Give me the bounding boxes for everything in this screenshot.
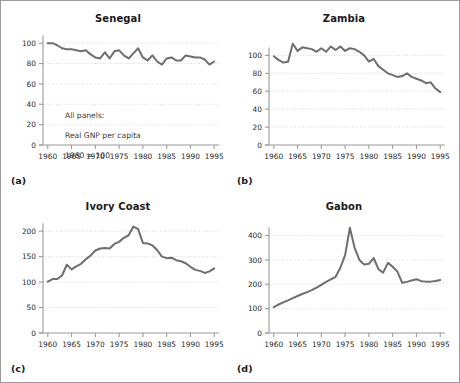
svg-text:80: 80 [253, 69, 263, 78]
svg-text:100: 100 [22, 278, 36, 287]
panel-ivory-coast: Ivory Coast 0501001502001960196519701975… [7, 197, 229, 381]
svg-text:1980: 1980 [359, 340, 378, 349]
panel-letter-a: (a) [11, 175, 26, 186]
svg-text:1990: 1990 [407, 340, 426, 349]
note-line-2: Real GNP per capita [65, 131, 141, 140]
svg-text:1980: 1980 [133, 340, 152, 349]
svg-text:1975: 1975 [110, 340, 129, 349]
svg-text:1960: 1960 [264, 152, 283, 161]
panel-title-ivory-coast: Ivory Coast [7, 201, 229, 212]
svg-text:100: 100 [22, 39, 36, 48]
note-line-1: All panels: [65, 111, 104, 120]
svg-text:1995: 1995 [205, 152, 224, 161]
svg-text:100: 100 [248, 51, 262, 60]
svg-text:1960: 1960 [38, 340, 57, 349]
svg-text:1965: 1965 [62, 340, 81, 349]
panel-letter-c: (c) [11, 363, 25, 374]
figure-frame: Senegal 02040608010019601965197019751980… [0, 0, 460, 383]
figure-note: All panels: Real GNP per capita 1960 = 1… [65, 101, 141, 161]
chart-zambia: 0204060801001960196519701975198019851990… [233, 25, 455, 175]
svg-text:0: 0 [31, 141, 36, 150]
svg-text:40: 40 [253, 105, 263, 114]
svg-text:0: 0 [257, 329, 262, 338]
svg-text:1990: 1990 [181, 152, 200, 161]
svg-text:1995: 1995 [205, 340, 224, 349]
svg-text:1980: 1980 [359, 152, 378, 161]
svg-text:50: 50 [27, 303, 37, 312]
svg-text:40: 40 [27, 100, 37, 109]
panel-letter-b: (b) [237, 175, 252, 186]
chart-gabon: 0100200300400196019651970197519801985199… [233, 213, 455, 363]
svg-text:20: 20 [253, 123, 263, 132]
panel-title-gabon: Gabon [233, 201, 455, 212]
svg-text:1985: 1985 [157, 152, 176, 161]
svg-text:1985: 1985 [157, 340, 176, 349]
svg-text:1965: 1965 [288, 340, 307, 349]
svg-text:1995: 1995 [431, 340, 450, 349]
svg-text:20: 20 [27, 120, 37, 129]
svg-text:1970: 1970 [312, 152, 331, 161]
svg-text:1975: 1975 [336, 152, 355, 161]
svg-text:1960: 1960 [264, 340, 283, 349]
svg-text:0: 0 [31, 329, 36, 338]
panel-title-senegal: Senegal [7, 13, 229, 24]
panel-gabon: Gabon 0100200300400196019651970197519801… [233, 197, 455, 381]
panel-zambia: Zambia 020406080100196019651970197519801… [233, 7, 455, 193]
note-line-3: 1960 = 100 [65, 151, 110, 160]
svg-text:150: 150 [22, 252, 36, 261]
svg-text:80: 80 [27, 59, 37, 68]
svg-text:1990: 1990 [181, 340, 200, 349]
svg-text:100: 100 [248, 304, 262, 313]
chart-ivory-coast: 0501001502001960196519701975198019851990… [7, 213, 229, 363]
panel-senegal: Senegal 02040608010019601965197019751980… [7, 7, 229, 193]
panel-letter-d: (d) [237, 363, 252, 374]
svg-text:200: 200 [248, 280, 262, 289]
svg-text:300: 300 [248, 256, 262, 265]
plot-ivory-coast: 0501001502001960196519701975198019851990… [7, 213, 229, 363]
svg-text:200: 200 [22, 227, 36, 236]
svg-text:1990: 1990 [407, 152, 426, 161]
svg-text:1970: 1970 [312, 340, 331, 349]
svg-text:1960: 1960 [38, 152, 57, 161]
svg-text:1965: 1965 [288, 152, 307, 161]
svg-text:0: 0 [257, 141, 262, 150]
svg-text:1985: 1985 [383, 340, 402, 349]
plot-gabon: 0100200300400196019651970197519801985199… [233, 213, 455, 363]
svg-text:1985: 1985 [383, 152, 402, 161]
panel-title-zambia: Zambia [233, 13, 455, 24]
svg-text:1995: 1995 [431, 152, 450, 161]
svg-text:60: 60 [253, 87, 263, 96]
svg-text:400: 400 [248, 231, 262, 240]
svg-text:1970: 1970 [86, 340, 105, 349]
plot-zambia: 0204060801001960196519701975198019851990… [233, 25, 455, 175]
svg-text:60: 60 [27, 80, 37, 89]
svg-text:1975: 1975 [336, 340, 355, 349]
